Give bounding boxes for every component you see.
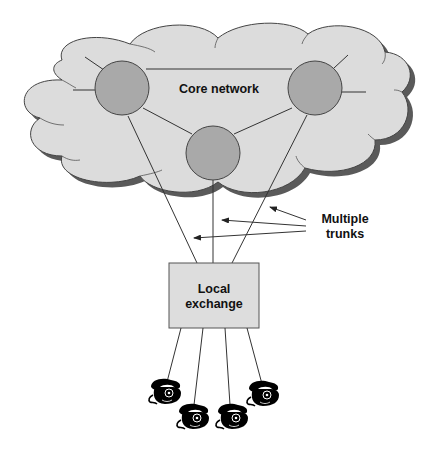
multiple-trunks-label-line2: trunks xyxy=(310,227,380,242)
local-exchange-label-line1: Local xyxy=(169,282,259,297)
multiple-trunks-label-line1: Multiple xyxy=(310,212,380,227)
arrow-icon xyxy=(222,220,306,226)
subscriber-lines xyxy=(167,328,262,405)
switch-node-left xyxy=(95,61,149,115)
switch-node-right xyxy=(288,61,342,115)
annotation-arrows xyxy=(194,207,306,238)
telephone-icon xyxy=(177,404,209,429)
core-network-label: Core network xyxy=(169,82,269,96)
arrow-icon xyxy=(270,207,306,220)
arrow-icon xyxy=(194,231,306,238)
local-exchange-label: Local exchange xyxy=(169,282,259,312)
telephone-icon xyxy=(216,404,248,429)
telephone-icon xyxy=(247,381,279,406)
multiple-trunks-label: Multiple trunks xyxy=(310,212,380,242)
switch-node-center xyxy=(186,126,240,180)
telephone-icon xyxy=(149,379,181,404)
local-exchange-label-line2: exchange xyxy=(169,297,259,312)
